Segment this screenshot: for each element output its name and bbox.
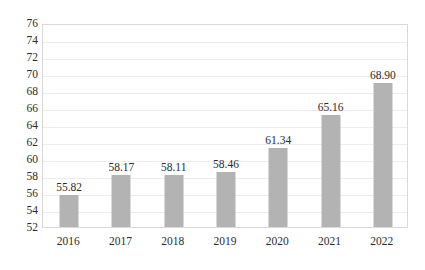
x-axis: 2016201720182019202020212022: [42, 232, 408, 256]
bar-slot: 58.11: [148, 25, 200, 227]
x-axis-tick-label: 2016: [57, 236, 80, 248]
bar-slot: 61.34: [252, 25, 304, 227]
y-axis-tick-label: 60: [4, 154, 38, 166]
bar-value-label: 58.17: [108, 162, 134, 174]
x-axis-tick-label: 2017: [109, 236, 132, 248]
x-axis-tick-label: 2019: [214, 236, 237, 248]
bar-slot: 65.16: [304, 25, 356, 227]
bar[interactable]: [217, 172, 236, 227]
y-axis-tick-label: 66: [4, 103, 38, 115]
y-axis-tick-label: 72: [4, 52, 38, 64]
x-axis-tick-label: 2021: [318, 236, 341, 248]
y-axis-tick-label: 68: [4, 86, 38, 98]
y-axis: 76747270686664626058565452: [0, 0, 38, 270]
x-axis-tick-label: 2018: [161, 236, 184, 248]
bar-chart: 55.8258.1758.1158.4661.3465.1668.90 7674…: [0, 0, 425, 270]
plot-area: 55.8258.1758.1158.4661.3465.1668.90: [42, 24, 408, 228]
y-axis-tick-label: 54: [4, 205, 38, 217]
bar-value-label: 58.11: [161, 162, 186, 174]
bar[interactable]: [60, 195, 79, 228]
bar-slot: 68.90: [357, 25, 409, 227]
y-axis-tick-label: 56: [4, 188, 38, 200]
y-axis-tick-label: 62: [4, 137, 38, 149]
bar-value-label: 61.34: [265, 135, 291, 147]
bar[interactable]: [269, 148, 288, 227]
x-axis-tick-label: 2022: [370, 236, 393, 248]
bar-slot: 55.82: [43, 25, 95, 227]
y-axis-tick-label: 74: [4, 35, 38, 47]
x-axis-tick-label: 2020: [266, 236, 289, 248]
bar-slot: 58.46: [200, 25, 252, 227]
bar[interactable]: [164, 175, 183, 227]
bar-value-label: 58.46: [213, 159, 239, 171]
y-axis-tick-label: 76: [4, 18, 38, 30]
bar-slot: 58.17: [95, 25, 147, 227]
bar-value-label: 68.90: [370, 70, 396, 82]
bar[interactable]: [373, 83, 392, 227]
bar[interactable]: [112, 175, 131, 227]
y-axis-tick-label: 64: [4, 120, 38, 132]
y-axis-tick-label: 70: [4, 69, 38, 81]
bar-value-label: 55.82: [56, 182, 82, 194]
bar[interactable]: [321, 115, 340, 227]
y-axis-tick-label: 52: [4, 222, 38, 234]
bar-value-label: 65.16: [318, 102, 344, 114]
y-axis-tick-label: 58: [4, 171, 38, 183]
